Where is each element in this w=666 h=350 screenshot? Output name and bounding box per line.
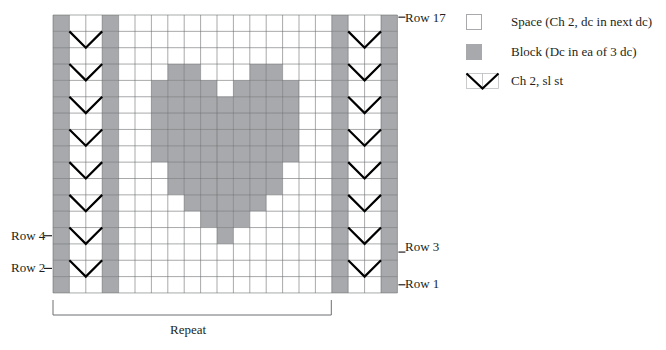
block-cell	[201, 211, 217, 227]
block-cell	[53, 80, 69, 96]
space-cell	[348, 179, 364, 195]
space-cell	[266, 211, 282, 227]
space-cell	[315, 129, 331, 145]
block-cell	[283, 80, 299, 96]
space-cell	[151, 211, 167, 227]
block-cell	[381, 277, 397, 293]
space-cell	[201, 15, 217, 31]
block-cell	[102, 260, 118, 276]
space-cell	[315, 277, 331, 293]
row-1-label: Row 1	[405, 277, 439, 291]
block-cell	[201, 195, 217, 211]
block-cell	[151, 80, 167, 96]
space-cell	[69, 146, 85, 162]
block-cell	[332, 113, 348, 129]
space-cell	[135, 97, 151, 113]
space-cell	[365, 15, 381, 31]
space-cell	[283, 31, 299, 47]
block-cell	[102, 15, 118, 31]
space-cell	[151, 244, 167, 260]
space-cell	[266, 244, 282, 260]
space-cell	[86, 244, 102, 260]
space-cell	[119, 211, 135, 227]
legend-symbols	[467, 15, 499, 89]
block-cell	[381, 15, 397, 31]
block-cell	[233, 146, 249, 162]
space-cell	[266, 277, 282, 293]
block-cell	[381, 97, 397, 113]
space-cell	[119, 195, 135, 211]
legend-space-icon	[467, 15, 482, 30]
space-cell	[250, 48, 266, 64]
space-cell	[299, 146, 315, 162]
block-cell	[332, 64, 348, 80]
block-cell	[53, 15, 69, 31]
block-cell	[283, 146, 299, 162]
space-cell	[69, 211, 85, 227]
block-cell	[201, 146, 217, 162]
block-cell	[217, 129, 233, 145]
block-cell	[381, 64, 397, 80]
space-cell	[283, 162, 299, 178]
space-cell	[201, 31, 217, 47]
block-cell	[53, 113, 69, 129]
block-cell	[102, 48, 118, 64]
space-cell	[86, 113, 102, 129]
space-cell	[86, 48, 102, 64]
space-cell	[69, 48, 85, 64]
block-cell	[250, 64, 266, 80]
block-cell	[233, 195, 249, 211]
block-cell	[332, 228, 348, 244]
space-cell	[168, 195, 184, 211]
space-cell	[119, 64, 135, 80]
space-cell	[250, 260, 266, 276]
space-cell	[315, 228, 331, 244]
space-cell	[233, 277, 249, 293]
block-cell	[201, 129, 217, 145]
block-cell	[53, 211, 69, 227]
block-cell	[217, 113, 233, 129]
block-cell	[102, 31, 118, 47]
space-cell	[119, 146, 135, 162]
space-cell	[283, 48, 299, 64]
space-cell	[168, 260, 184, 276]
block-cell	[266, 97, 282, 113]
space-cell	[135, 211, 151, 227]
space-cell	[250, 15, 266, 31]
block-cell	[381, 129, 397, 145]
block-cell	[184, 146, 200, 162]
block-cell	[266, 146, 282, 162]
space-cell	[119, 179, 135, 195]
space-cell	[283, 195, 299, 211]
space-cell	[151, 48, 167, 64]
block-cell	[250, 146, 266, 162]
block-cell	[102, 129, 118, 145]
block-cell	[283, 97, 299, 113]
space-cell	[233, 31, 249, 47]
space-cell	[299, 48, 315, 64]
block-cell	[266, 64, 282, 80]
block-cell	[53, 129, 69, 145]
space-cell	[217, 260, 233, 276]
space-cell	[299, 162, 315, 178]
block-cell	[53, 162, 69, 178]
block-cell	[381, 48, 397, 64]
block-cell	[168, 113, 184, 129]
space-cell	[168, 31, 184, 47]
space-cell	[299, 113, 315, 129]
block-cell	[53, 277, 69, 293]
block-cell	[201, 97, 217, 113]
space-cell	[201, 48, 217, 64]
space-cell	[86, 80, 102, 96]
space-cell	[299, 179, 315, 195]
space-cell	[315, 260, 331, 276]
legend-chevron-label: Ch 2, sl st	[511, 74, 563, 88]
space-cell	[151, 277, 167, 293]
block-cell	[217, 162, 233, 178]
block-cell	[250, 113, 266, 129]
space-cell	[86, 277, 102, 293]
space-cell	[135, 179, 151, 195]
block-cell	[168, 146, 184, 162]
block-cell	[381, 162, 397, 178]
space-cell	[266, 195, 282, 211]
